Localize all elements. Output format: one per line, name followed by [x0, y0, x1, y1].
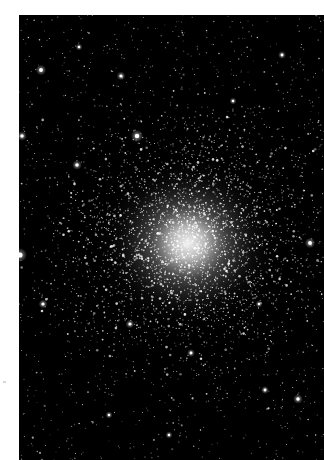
page — [0, 0, 324, 460]
page-speck — [3, 381, 6, 383]
starfield-image — [19, 15, 324, 460]
star-cluster-photo — [19, 15, 324, 460]
cluster-core-glow — [93, 153, 283, 334]
